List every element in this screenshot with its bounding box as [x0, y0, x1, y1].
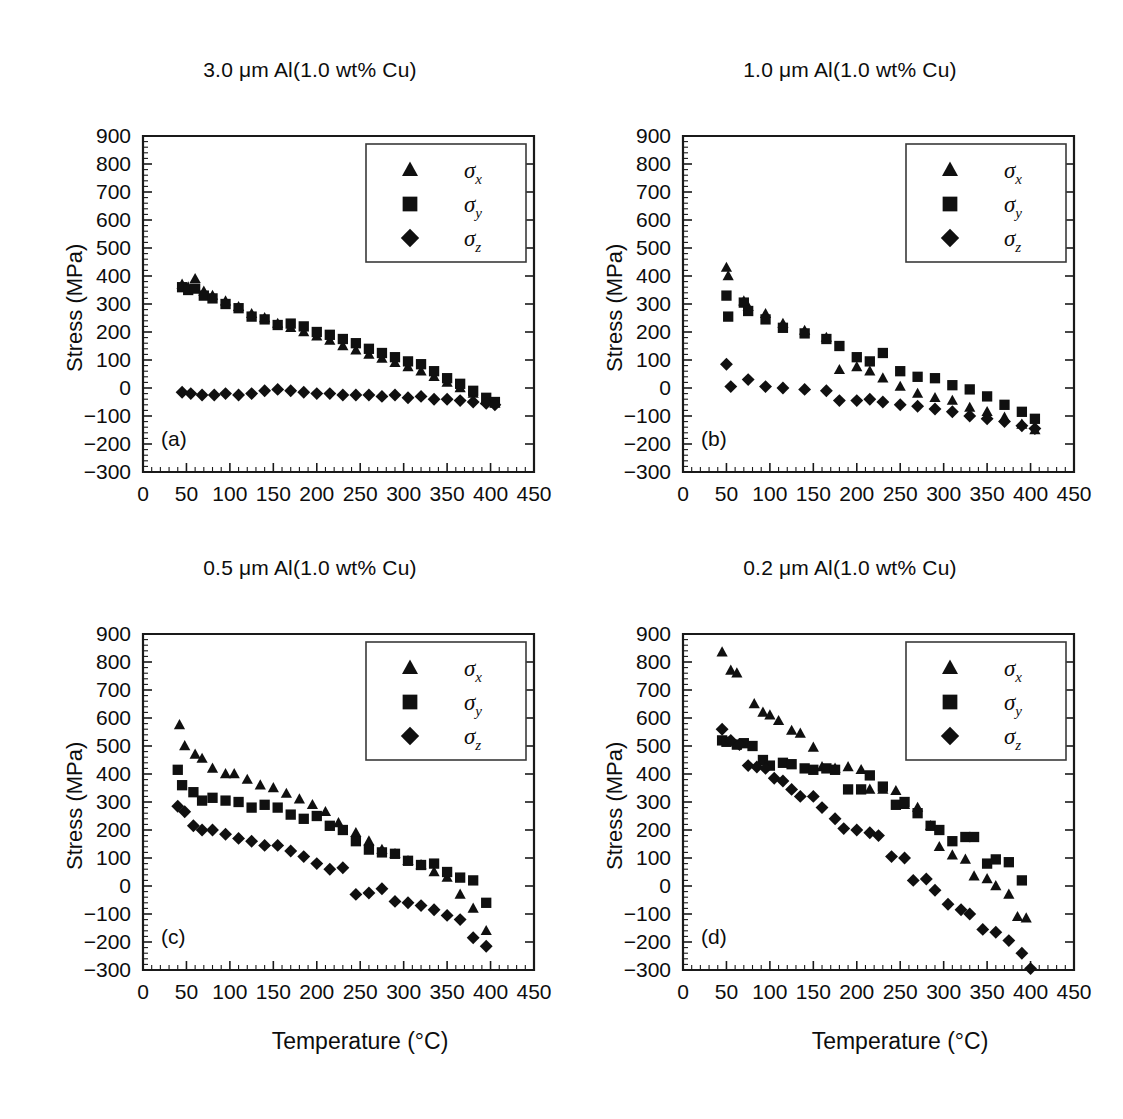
x-tick-label: 250 — [343, 482, 378, 505]
marker-square — [856, 784, 866, 794]
marker-triangle — [220, 768, 231, 778]
marker-diamond — [920, 873, 933, 886]
marker-triangle — [307, 799, 318, 809]
y-tick-label: −200 — [624, 930, 671, 953]
y-tick-label: 0 — [659, 874, 671, 897]
series-σy — [173, 765, 492, 908]
marker-diamond — [894, 398, 907, 411]
marker-triangle — [773, 715, 784, 725]
marker-diamond — [219, 828, 232, 841]
marker-diamond — [196, 389, 209, 402]
marker-diamond — [245, 835, 258, 848]
marker-square — [207, 793, 217, 803]
marker-diamond — [402, 896, 415, 909]
marker-square — [364, 844, 374, 854]
y-tick-label: 500 — [96, 236, 131, 259]
marker-square — [220, 299, 230, 309]
x-tick-label: 50 — [715, 980, 738, 1003]
marker-square — [743, 306, 753, 316]
x-tick-label: 300 — [926, 980, 961, 1003]
x-tick-label: 350 — [430, 482, 465, 505]
marker-diamond — [441, 393, 454, 406]
y-tick-label: 500 — [96, 734, 131, 757]
panel-b: 1.0 μm Al(1.0 wt% Cu)9008007006005004003… — [580, 52, 1120, 572]
x-tick-label: 100 — [752, 980, 787, 1003]
marker-diamond — [759, 380, 772, 393]
marker-diamond — [258, 384, 271, 397]
marker-square — [830, 765, 840, 775]
x-tick-label: 450 — [516, 482, 551, 505]
x-tick-label: 450 — [1056, 980, 1091, 1003]
x-tick-label: 400 — [473, 482, 508, 505]
marker-square — [442, 867, 452, 877]
x-tick-label: 450 — [1056, 482, 1091, 505]
marker-diamond — [1015, 947, 1028, 960]
marker-diamond — [929, 884, 942, 897]
legend: σxσyσz — [906, 144, 1066, 262]
marker-diamond — [206, 824, 219, 837]
marker-diamond — [219, 387, 232, 400]
marker-square — [351, 338, 361, 348]
panel-a: 3.0 μm Al(1.0 wt% Cu)9008007006005004003… — [40, 52, 580, 572]
marker-triangle — [190, 273, 201, 283]
x-tick-label: 400 — [473, 980, 508, 1003]
marker-diamond — [389, 389, 402, 402]
y-tick-label: 800 — [636, 152, 671, 175]
y-axis-label: Stress (MPa) — [602, 244, 628, 372]
y-axis-label: Stress (MPa) — [602, 742, 628, 870]
y-tick-label: 200 — [636, 320, 671, 343]
marker-diamond — [480, 940, 493, 953]
marker-diamond — [467, 931, 480, 944]
x-tick-label: 50 — [715, 482, 738, 505]
panel-c: 0.5 μm Al(1.0 wt% Cu)9008007006005004003… — [40, 550, 580, 1070]
y-tick-label: 700 — [636, 678, 671, 701]
marker-triangle — [851, 361, 862, 371]
marker-square — [364, 344, 374, 354]
marker-diamond — [284, 845, 297, 858]
marker-square — [778, 323, 788, 333]
marker-square — [947, 836, 957, 846]
marker-triangle — [968, 870, 979, 880]
marker-square — [220, 795, 230, 805]
marker-square — [723, 311, 733, 321]
x-tick-label: 100 — [212, 980, 247, 1003]
marker-diamond — [323, 863, 336, 876]
marker-square — [1017, 875, 1027, 885]
marker-square — [455, 872, 465, 882]
marker-square — [1004, 857, 1014, 867]
y-tick-label: 100 — [636, 348, 671, 371]
marker-diamond — [946, 405, 959, 418]
x-tick-label: 400 — [1013, 980, 1048, 1003]
legend: σxσyσz — [366, 642, 526, 760]
marker-square — [721, 290, 731, 300]
marker-diamond — [454, 913, 467, 926]
marker-square — [943, 695, 958, 710]
y-tick-label: 300 — [96, 790, 131, 813]
marker-triangle — [947, 395, 958, 405]
marker-square — [197, 795, 207, 805]
y-axis-label: Stress (MPa) — [62, 742, 88, 870]
panel-title: 1.0 μm Al(1.0 wt% Cu) — [580, 58, 1120, 82]
marker-diamond — [428, 903, 441, 916]
marker-square — [177, 780, 187, 790]
marker-square — [878, 781, 888, 791]
x-tick-label: 300 — [926, 482, 961, 505]
marker-triangle — [864, 365, 875, 375]
marker-square — [286, 809, 296, 819]
marker-diamond — [349, 389, 362, 402]
y-tick-label: 0 — [119, 376, 131, 399]
marker-diamond — [807, 790, 820, 803]
y-tick-label: 600 — [96, 706, 131, 729]
marker-triangle — [834, 364, 845, 374]
x-tick-label: 450 — [516, 980, 551, 1003]
marker-square — [912, 372, 922, 382]
marker-diamond — [876, 396, 889, 409]
marker-diamond — [284, 384, 297, 397]
marker-diamond — [415, 899, 428, 912]
marker-triangle — [786, 725, 797, 735]
marker-triangle — [268, 782, 279, 792]
marker-diamond — [1024, 962, 1037, 975]
y-tick-label: 500 — [636, 734, 671, 757]
plot-wrap: 9008007006005004003002001000−100−200−300… — [40, 116, 580, 516]
marker-square — [273, 802, 283, 812]
